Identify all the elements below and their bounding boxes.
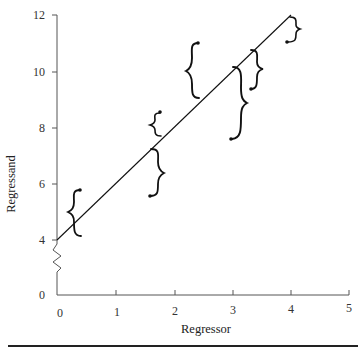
residual-braces xyxy=(68,17,300,236)
brace-left-1 xyxy=(68,190,81,236)
brace-right-2 xyxy=(232,67,247,139)
y-tick-4: 4 xyxy=(39,233,45,247)
y-tick-labels: 12 10 8 6 4 0 xyxy=(33,8,45,302)
brace-right-3 xyxy=(251,50,263,89)
y-tick-10: 10 xyxy=(33,65,45,79)
x-tick-3: 3 xyxy=(230,303,236,317)
point-2 xyxy=(148,194,152,198)
x-tick-2: 2 xyxy=(172,304,178,318)
y-axis xyxy=(52,15,61,295)
point-7 xyxy=(285,40,289,44)
brace-right-4 xyxy=(288,17,300,42)
x-axis xyxy=(57,290,349,295)
point-3 xyxy=(158,110,162,114)
y-tick-0: 0 xyxy=(39,288,45,302)
x-tick-0: 0 xyxy=(57,306,63,320)
brace-left-2 xyxy=(150,113,161,136)
x-tick-labels: 0 1 2 3 4 5 xyxy=(57,301,352,320)
y-axis-title: Regressand xyxy=(4,154,18,212)
brace-left-3 xyxy=(186,43,199,98)
regression-chart: 12 10 8 6 4 0 0 1 2 3 4 5 Regressor Regr… xyxy=(0,0,358,349)
point-5 xyxy=(229,137,233,141)
point-4 xyxy=(196,41,200,45)
y-tick-6: 6 xyxy=(39,177,45,191)
brace-right-1 xyxy=(150,149,164,196)
point-1 xyxy=(78,188,82,192)
x-tick-5: 5 xyxy=(346,301,352,315)
regression-line xyxy=(57,15,291,240)
y-tick-12: 12 xyxy=(33,8,45,22)
x-axis-title: Regressor xyxy=(181,322,232,336)
x-tick-1: 1 xyxy=(114,305,120,319)
point-6 xyxy=(249,87,253,91)
x-tick-4: 4 xyxy=(288,302,294,316)
y-tick-8: 8 xyxy=(39,121,45,135)
